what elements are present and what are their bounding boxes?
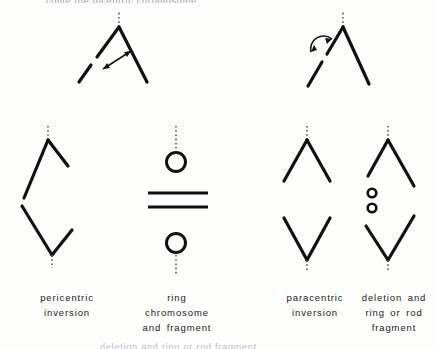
top-row-pericentric-break: [79, 11, 147, 82]
pericentric-inversion-figure: [22, 126, 72, 268]
caption-line: inversion: [268, 305, 362, 320]
arm-lower-long: [22, 206, 52, 255]
caption-pericentric-inversion: pericentric inversion: [8, 290, 126, 320]
arm-lower-left: [284, 218, 307, 260]
caption-line: paracentric: [268, 290, 362, 305]
small-ring-fragment-lower: [368, 204, 377, 213]
top-row-paracentric-break: [308, 11, 369, 86]
arm-lower-right: [307, 218, 330, 260]
deletion-ring-rod-figure: [366, 126, 414, 272]
arm-upper-right: [307, 140, 330, 181]
caption-deletion-and-ring-or-rod-fragment: deletion and ring or rod fragment: [350, 290, 437, 335]
ring-chromosome-figure: [148, 126, 208, 276]
caption-line: chromosome: [118, 305, 236, 320]
caption-line: inversion: [8, 305, 126, 320]
caption-line: deletion and: [350, 290, 437, 305]
arm-upper-long: [24, 140, 48, 198]
arrow-head-left-icon: [311, 45, 317, 52]
arm-lower-long: [388, 216, 414, 260]
arm-upper-short: [48, 140, 68, 166]
chromatid-arm-right: [343, 27, 369, 84]
caption-line: pericentric: [8, 290, 126, 305]
caption-ring-chromosome-and-fragment: ring chromosome and fragment: [118, 290, 236, 335]
ring-chromosome-lower: [167, 234, 186, 253]
chromatid-arm-right: [119, 27, 147, 82]
arm-lower-short: [52, 230, 72, 255]
arrow-head-right-icon: [325, 38, 332, 44]
small-ring-fragment-upper: [368, 189, 377, 198]
arm-upper-left: [284, 140, 307, 181]
caption-paracentric-inversion: paracentric inversion: [268, 290, 362, 320]
caption-line: and fragment: [118, 320, 236, 335]
bottom-cropped-caption: deletion and ring or rod fragment: [100, 342, 400, 349]
ring-chromosome-upper: [167, 153, 186, 172]
arm-upper-long: [388, 140, 414, 186]
caption-line: ring: [118, 290, 236, 305]
chromatid-arm-left-upper: [97, 27, 119, 57]
paracentric-inversion-figure: [284, 126, 330, 272]
caption-line: ring or rod: [350, 305, 437, 320]
arm-lower-short: [366, 226, 388, 260]
caption-line: fragment: [350, 320, 437, 335]
chromatid-arm-left-lower: [79, 65, 91, 82]
arm-upper-short: [368, 140, 388, 176]
chromatid-arm-left-lower: [308, 62, 322, 86]
chromosome-aberration-figure: come the dicentric chromosome: [0, 0, 437, 349]
